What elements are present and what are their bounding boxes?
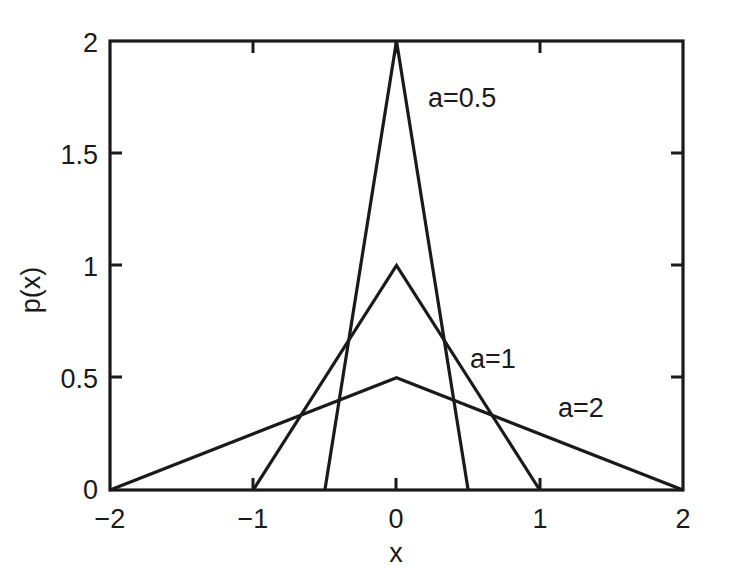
y-axis-title: p(x) [16,267,46,314]
x-axis-title: x [389,538,403,568]
x-tick-label-2: 2 [675,504,690,534]
y-tick-label-1: 1 [83,252,98,282]
plot-canvas: 2 1.5 1 0.5 0 −2 −1 0 1 2 x p(x) a=0.5 a… [0,0,730,581]
right-axis-ticks [671,153,683,377]
chart-figure: 2 1.5 1 0.5 0 −2 −1 0 1 2 x p(x) a=0.5 a… [0,0,730,581]
x-tick-label-1: 1 [532,504,547,534]
left-axis-ticks [110,153,122,377]
series-annotation-a-2: a=2 [558,393,604,423]
x-tick-label-0: 0 [388,504,403,534]
y-tick-label-0: 0 [83,475,98,505]
x-tick-label-minus2: −2 [95,504,126,534]
x-tick-label-minus1: −1 [238,504,269,534]
y-tick-label-2: 2 [83,28,98,58]
bottom-axis-ticks [253,478,540,490]
y-tick-label-0point5: 0.5 [60,364,98,394]
series-annotation-a-0point5: a=0.5 [428,83,496,113]
series-annotation-a-1: a=1 [470,344,516,374]
y-tick-label-1point5: 1.5 [60,140,98,170]
